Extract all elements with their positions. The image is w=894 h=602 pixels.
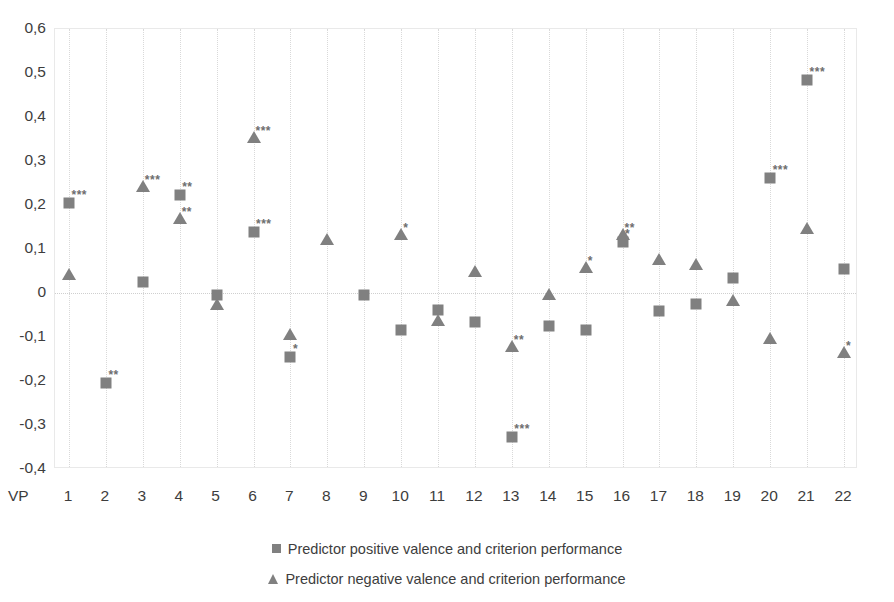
x-axis-tick-label: 14	[528, 487, 568, 505]
vertical-gridline	[364, 29, 365, 467]
legend-item-label: Predictor positive valence and criterion…	[288, 541, 622, 557]
legend-item: Predictor negative valence and criterion…	[0, 564, 894, 594]
vertical-gridline	[180, 29, 181, 467]
vertical-gridline	[549, 29, 550, 467]
square-marker-icon	[654, 306, 665, 317]
x-axis-tick-label: 2	[85, 487, 125, 505]
data-point-square	[691, 299, 702, 310]
vertical-gridline	[696, 29, 697, 467]
data-point-square	[580, 325, 591, 336]
triangle-marker-icon	[320, 233, 334, 245]
significance-label: ***	[256, 125, 272, 137]
vertical-gridline	[217, 29, 218, 467]
significance-label: ***	[514, 423, 530, 435]
x-axis-tick-label: 17	[638, 487, 678, 505]
significance-label: **	[182, 181, 192, 193]
x-axis-tick-label: 18	[675, 487, 715, 505]
vertical-gridline	[659, 29, 660, 467]
square-marker-icon	[137, 277, 148, 288]
data-point-triangle: **	[173, 212, 187, 224]
x-axis-tick-label: 20	[749, 487, 789, 505]
y-axis-tick-label: 0,3	[0, 151, 46, 169]
x-axis-tick-label: 8	[306, 487, 346, 505]
vertical-gridline	[69, 29, 70, 467]
y-axis-tick-label: 0,5	[0, 63, 46, 81]
significance-label: **	[514, 334, 524, 346]
data-point-square: *	[285, 351, 296, 362]
data-point-square	[654, 306, 665, 317]
triangle-marker-icon	[431, 314, 445, 326]
data-point-square	[469, 316, 480, 327]
square-marker-icon	[359, 290, 370, 301]
scatter-chart: 0,60,50,40,30,20,10-0,1-0,2-0,3-0,4 ****…	[0, 0, 894, 602]
data-point-square	[543, 321, 554, 332]
square-marker-icon	[543, 321, 554, 332]
vertical-gridline	[733, 29, 734, 467]
x-axis-tick-label: 16	[602, 487, 642, 505]
x-axis-tick-label: 22	[823, 487, 863, 505]
square-marker-icon	[469, 316, 480, 327]
chart-legend: Predictor positive valence and criterion…	[0, 534, 894, 594]
y-axis-tick-label: -0,4	[0, 459, 46, 477]
vertical-gridline	[143, 29, 144, 467]
significance-label: *	[403, 222, 408, 234]
legend-item-label: Predictor negative valence and criterion…	[285, 571, 625, 587]
significance-label: *	[588, 255, 593, 267]
significance-label: **	[182, 206, 192, 218]
significance-label: ***	[145, 174, 161, 186]
data-point-triangle	[431, 314, 445, 326]
vertical-gridline	[512, 29, 513, 467]
significance-label: ***	[256, 218, 272, 230]
data-point-square: **	[174, 190, 185, 201]
y-axis-tick-label: 0,1	[0, 239, 46, 257]
square-marker-icon	[396, 325, 407, 336]
x-axis-tick-label: 21	[786, 487, 826, 505]
legend-item: Predictor positive valence and criterion…	[0, 534, 894, 564]
y-axis-tick-label: 0,2	[0, 195, 46, 213]
triangle-marker-icon	[800, 222, 814, 234]
x-axis-tick-label: 4	[159, 487, 199, 505]
triangle-marker-icon	[283, 328, 297, 340]
square-marker-icon	[691, 299, 702, 310]
plot-area: ************************************	[54, 28, 857, 468]
triangle-marker-icon	[62, 268, 76, 280]
triangle-marker-icon	[468, 265, 482, 277]
data-point-triangle	[468, 265, 482, 277]
y-axis-tick-label: -0,1	[0, 327, 46, 345]
square-marker-icon	[728, 273, 739, 284]
vertical-gridline	[586, 29, 587, 467]
x-axis-tick-label: 15	[565, 487, 605, 505]
data-point-triangle	[726, 294, 740, 306]
vertical-gridline	[290, 29, 291, 467]
significance-label: **	[108, 369, 118, 381]
triangle-marker-icon	[763, 332, 777, 344]
vertical-gridline	[327, 29, 328, 467]
triangle-marker-icon	[689, 258, 703, 270]
x-axis-tick-label: 6	[233, 487, 273, 505]
x-axis-tick-label: 9	[343, 487, 383, 505]
data-point-triangle	[320, 233, 334, 245]
triangle-marker-icon	[210, 298, 224, 310]
vertical-gridline	[770, 29, 771, 467]
x-axis-tick-label: 19	[712, 487, 752, 505]
triangle-marker-icon	[726, 294, 740, 306]
data-point-triangle: **	[616, 228, 630, 240]
y-axis-tick-label: 0	[0, 283, 46, 301]
x-axis-prefix-label: VP	[8, 487, 29, 505]
significance-label: ***	[810, 65, 826, 77]
data-point-triangle	[542, 288, 556, 300]
vertical-gridline	[401, 29, 402, 467]
data-point-square: ***	[765, 172, 776, 183]
x-axis-tick-label: 11	[417, 487, 457, 505]
x-axis-tick-label: 5	[196, 487, 236, 505]
data-point-square	[728, 273, 739, 284]
vertical-gridline	[844, 29, 845, 467]
x-axis-tick-label: 1	[48, 487, 88, 505]
x-axis-tick-label: 7	[269, 487, 309, 505]
x-axis-tick-label: 3	[122, 487, 162, 505]
data-point-triangle	[800, 222, 814, 234]
data-point-square: **	[100, 378, 111, 389]
triangle-marker-icon	[652, 253, 666, 265]
data-point-triangle	[652, 253, 666, 265]
legend-triangle-icon	[268, 574, 278, 584]
